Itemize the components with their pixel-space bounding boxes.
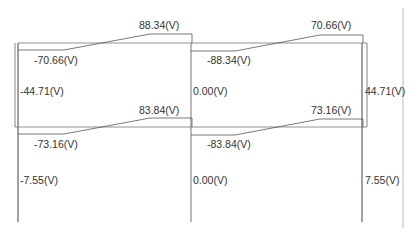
upper-left-beam-start-label: -70.66(V) — [34, 54, 78, 66]
upper-left-beam-shear — [18, 34, 192, 50]
upper-left-beam-end-label: 88.34(V) — [139, 19, 179, 31]
frame-diagram — [0, 0, 418, 242]
upper-middle-column-label: 0.00(V) — [193, 85, 227, 97]
lower-left-beam-end-label: 83.84(V) — [139, 104, 179, 116]
lower-left-column-label: -7.55(V) — [20, 174, 58, 186]
lower-right-beam-end-label: 73.16(V) — [311, 104, 351, 116]
lower-left-beam-shear — [18, 118, 192, 134]
upper-right-column-label: 44.71(V) — [365, 85, 405, 97]
lower-middle-column-label: 0.00(V) — [193, 174, 227, 186]
upper-right-beam-start-label: -88.34(V) — [207, 54, 251, 66]
lower-right-beam-start-label: -83.84(V) — [207, 138, 251, 150]
upper-left-column-label: -44.71(V) — [20, 85, 64, 97]
upper-right-beam-end-label: 70.66(V) — [311, 19, 351, 31]
lower-left-beam-start-label: -73.16(V) — [34, 138, 78, 150]
lower-right-column-label: 7.55(V) — [365, 174, 399, 186]
